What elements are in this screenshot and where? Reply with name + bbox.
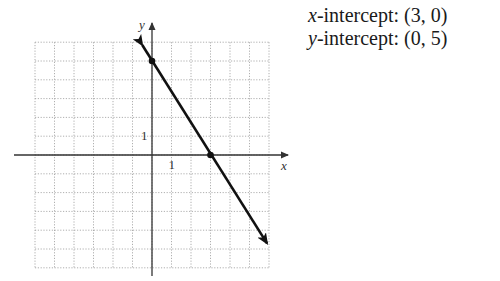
y-axis-label: y <box>137 17 145 32</box>
y-tick-label: 1 <box>141 128 148 143</box>
x-tick-label: 1 <box>169 157 176 172</box>
x-axis-label: x <box>280 158 287 173</box>
x-intercept-value: (3, 0) <box>404 4 447 26</box>
y-intercept-value: (0, 5) <box>404 27 447 49</box>
x-intercept-text: x-intercept: (3, 0) <box>308 4 447 27</box>
plotted-line <box>142 45 267 243</box>
intercepts-text: x-intercept: (3, 0) y-intercept: (0, 5) <box>308 4 447 50</box>
coordinate-graph: x y 1 1 <box>0 0 300 281</box>
y-intercept-text: y-intercept: (0, 5) <box>308 27 447 50</box>
